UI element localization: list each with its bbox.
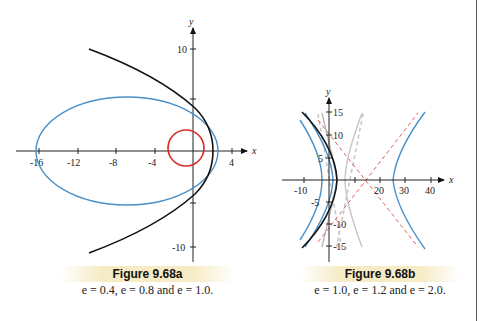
figure-b-xtick-label: -10 [294,185,307,196]
figure-a-ytick-label: -10 [172,242,185,253]
figure-b-x-axis-label: x [448,174,454,185]
figure-b-ytick-label: -15 [333,241,346,252]
figure-a-xtick-label: -4 [148,157,156,168]
figure-a-caption-title: Figure 9.68a [60,266,235,282]
figure-a-xtick-label: -12 [67,157,80,168]
figure-b-ytick-label: 5 [318,153,323,164]
figure-a-xtick-label: -8 [109,157,117,168]
figure-b-plot: -10 20 30 40 15 10 5 -5 -10 -15 y x [282,86,454,262]
figure-b-caption-text: e = 1.0, e = 1.2 and e = 2.0. [270,283,479,298]
figure-b-xtick-label: 40 [425,185,435,196]
figure-b-xtick-label: 30 [399,185,409,196]
ellipse-e-0.4 [168,130,204,166]
figure-b-ytick-label: 15 [333,107,343,118]
figure-a-xtick-label: 4 [229,157,234,168]
figure-a-ytick-label: 10 [177,44,187,55]
figure-a-x-axis-label: x [251,145,257,156]
figure-b-xtick-label: 20 [374,185,384,196]
figure-a-y-axis-label: y [188,16,194,27]
figure-a-caption-text: e = 0.4, e = 0.8 and e = 1.0. [40,283,255,298]
figure-b-ytick-label: 10 [333,130,343,141]
figure-b-ytick-label: -5 [311,197,319,208]
figure-a-plot: -16 -12 -8 -4 4 10 -10 y x [16,16,257,262]
figure-b-caption-title: Figure 9.68b [300,266,460,282]
figure-b-ytick-label: -10 [333,219,346,230]
figure-b-y-axis-label: y [325,86,331,97]
